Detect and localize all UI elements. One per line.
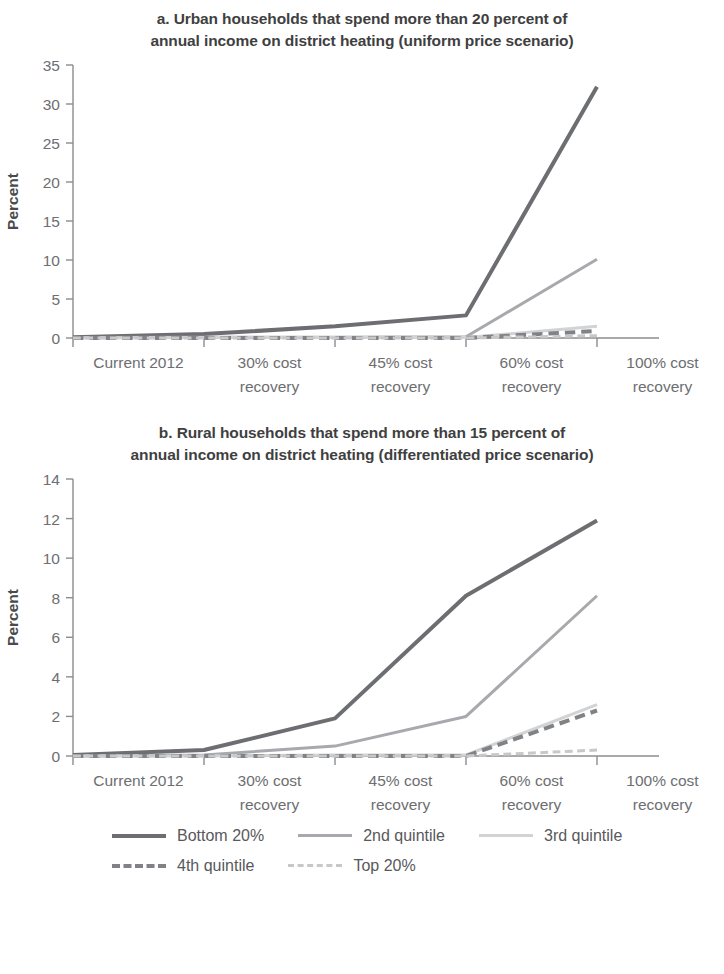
chart-b-plot: 02468101214PercentCurrent 201230% costre… (0, 467, 724, 827)
x-tick-label: recovery (240, 378, 300, 395)
chart-a-title-line1: a. Urban households that spend more than… (42, 8, 682, 30)
x-tick-label: recovery (371, 796, 431, 813)
x-tick-label: recovery (633, 796, 693, 813)
y-tick-label: 4 (51, 669, 60, 686)
y-tick-label: 30 (43, 96, 61, 113)
x-tick-label: recovery (240, 796, 300, 813)
legend-item-3rd-quintile: 3rd quintile (479, 827, 622, 845)
x-tick-label: 100% cost (626, 354, 699, 371)
legend-label: Bottom 20% (177, 827, 264, 845)
legend-label: 4th quintile (177, 857, 254, 875)
chart-b-title-line2: annual income on district heating (diffe… (42, 444, 682, 466)
legend-swatch-icon (288, 864, 342, 867)
legend-label: Top 20% (353, 857, 415, 875)
x-tick-label: 45% cost (369, 354, 433, 371)
legend-label: 2nd quintile (363, 827, 445, 845)
legend-swatch-icon (112, 864, 166, 868)
series-line-bottom-20 (73, 520, 597, 754)
chart-a-svg: 05101520253035PercentCurrent 201230% cos… (0, 53, 724, 408)
legend-swatch-icon (479, 834, 533, 837)
chart-a-plot: 05101520253035PercentCurrent 201230% cos… (0, 53, 724, 408)
legend-item-4th-quintile: 4th quintile (112, 857, 254, 875)
series-line-2nd-quintile (73, 596, 597, 756)
panel-b: b. Rural households that spend more than… (0, 422, 724, 827)
y-tick-label: 0 (51, 330, 60, 347)
y-tick-label: 10 (43, 252, 61, 269)
y-tick-label: 2 (51, 708, 60, 725)
x-tick-label: Current 2012 (93, 354, 183, 371)
x-tick-label: recovery (371, 378, 431, 395)
y-tick-label: 35 (43, 57, 60, 74)
x-tick-label: recovery (502, 796, 562, 813)
y-tick-label: 12 (43, 510, 60, 527)
x-tick-label: 60% cost (500, 772, 564, 789)
chart-a-title: a. Urban households that spend more than… (0, 0, 724, 53)
chart-b-title: b. Rural households that spend more than… (0, 422, 724, 467)
legend-label: 3rd quintile (544, 827, 622, 845)
legend-item-top-20: Top 20% (288, 857, 415, 875)
y-tick-label: 25 (43, 135, 60, 152)
y-tick-label: 0 (51, 748, 60, 765)
y-tick-label: 8 (51, 590, 60, 607)
panel-a: a. Urban households that spend more than… (0, 0, 724, 408)
x-tick-label: Current 2012 (93, 772, 183, 789)
y-tick-label: 14 (43, 471, 61, 488)
legend-swatch-icon (298, 834, 352, 837)
chart-b-svg: 02468101214PercentCurrent 201230% costre… (0, 467, 724, 827)
legend-row: 4th quintileTop 20% (112, 857, 724, 875)
x-tick-label: 60% cost (500, 354, 564, 371)
series-line-3rd-quintile (73, 704, 597, 755)
legend-item-bottom-20: Bottom 20% (112, 827, 264, 845)
legend-swatch-icon (112, 834, 166, 838)
x-tick-label: 30% cost (238, 354, 302, 371)
y-tick-label: 5 (51, 291, 60, 308)
chart-a-title-line2: annual income on district heating (unifo… (42, 30, 682, 52)
y-axis-title: Percent (4, 589, 21, 646)
y-tick-label: 10 (43, 550, 61, 567)
legend-item-2nd-quintile: 2nd quintile (298, 827, 445, 845)
x-tick-label: 100% cost (626, 772, 699, 789)
x-tick-label: 45% cost (369, 772, 433, 789)
x-tick-label: 30% cost (238, 772, 302, 789)
chart-legend: Bottom 20%2nd quintile3rd quintile4th qu… (0, 827, 724, 875)
chart-b-title-line1: b. Rural households that spend more than… (42, 422, 682, 444)
y-tick-label: 20 (43, 174, 61, 191)
y-tick-label: 15 (43, 213, 60, 230)
x-tick-label: recovery (633, 378, 693, 395)
x-tick-label: recovery (502, 378, 562, 395)
y-tick-label: 6 (51, 629, 60, 646)
y-axis-title: Percent (4, 173, 21, 230)
series-line-bottom-20 (73, 87, 597, 337)
legend-row: Bottom 20%2nd quintile3rd quintile (112, 827, 724, 845)
